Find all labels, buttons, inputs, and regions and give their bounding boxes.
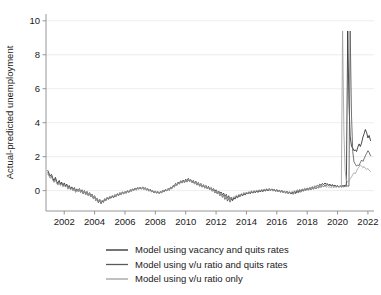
chart-figure: 0246810 20022004200620082010201220142016…	[0, 0, 381, 295]
y-tick-label-0: 0	[35, 185, 40, 196]
x-tick-label-2020: 2020	[327, 216, 348, 227]
x-tick-label-2018: 2018	[297, 216, 318, 227]
x-tick-label-2006: 2006	[114, 216, 135, 227]
y-tick-label-4: 4	[35, 117, 40, 128]
x-tick-label-2004: 2004	[84, 216, 105, 227]
legend-label-3: Model using v/u ratio only	[135, 273, 243, 284]
legend-label-2: Model using v/u ratio and quits rates	[135, 259, 288, 270]
y-tick-label-8: 8	[35, 49, 40, 60]
y-tick-label-10: 10	[29, 15, 40, 26]
x-tick-label-2016: 2016	[266, 216, 287, 227]
legend-label-1: Model using vacancy and quits rates	[135, 244, 289, 255]
x-tick-label-2014: 2014	[236, 216, 257, 227]
y-axis-label: Actual-predicted unemployment	[4, 45, 15, 179]
y-tick-label-2: 2	[35, 151, 40, 162]
x-tick-label-2002: 2002	[54, 216, 75, 227]
x-tick-label-2012: 2012	[206, 216, 227, 227]
x-tick-label-2022: 2022	[357, 216, 378, 227]
x-tick-label-2008: 2008	[145, 216, 166, 227]
y-tick-label-6: 6	[35, 83, 40, 94]
x-tick-label-2010: 2010	[175, 216, 196, 227]
